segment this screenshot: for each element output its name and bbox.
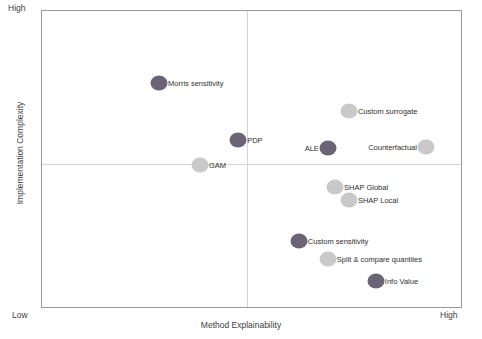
scatter-point-marker [151, 76, 168, 91]
scatter-point-label: Info Value [385, 276, 418, 285]
scatter-point-marker [340, 192, 357, 207]
scatter-point-label: Split & compare quantiles [337, 254, 422, 263]
scatter-point-label: SHAP Local [358, 195, 398, 204]
quadrant-divider-vertical [247, 11, 248, 307]
quadrant-divider-horizontal [42, 164, 461, 165]
scatter-point-marker [367, 273, 384, 288]
scatter-point-marker [230, 133, 247, 148]
scatter-point-label: ALE [305, 144, 319, 153]
plot-area: Morris sensitivityCustom surrogatePDPALE… [41, 10, 462, 308]
x-axis-tick-high: High [440, 310, 457, 320]
scatter-point-marker [191, 158, 208, 173]
y-axis-tick-high: High [8, 3, 25, 13]
scatter-point-label: Counterfactual [368, 142, 417, 151]
scatter-point-marker [417, 139, 434, 154]
y-axis-title: Implementation Complexity [15, 73, 25, 233]
scatter-point-label: Morris sensitivity [168, 79, 223, 88]
scatter-point-label: Custom surrogate [358, 107, 418, 116]
scatter-point-label: GAM [209, 161, 226, 170]
scatter-point-marker [319, 251, 336, 266]
scatter-point-marker [327, 179, 344, 194]
scatter-point-label: SHAP Global [344, 182, 388, 191]
scatter-point-label: PDP [247, 136, 262, 145]
scatter-point-label: Custom sensitivity [308, 237, 368, 246]
x-axis-title: Method Explainability [0, 320, 482, 330]
y-axis-tick-low: Low [12, 310, 28, 320]
scatter-point-marker [290, 234, 307, 249]
scatter-point-marker [340, 104, 357, 119]
scatter-point-marker [319, 141, 336, 156]
quadrant-scatter-chart: Morris sensitivityCustom surrogatePDPALE… [0, 0, 482, 339]
